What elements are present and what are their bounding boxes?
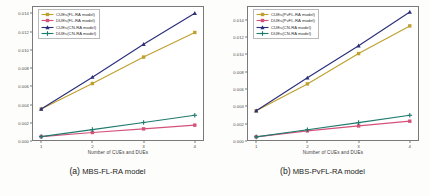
legend-marker-triangle-icon xyxy=(41,25,54,30)
series-line-3 xyxy=(41,115,195,136)
y-tick-label: 0.010 xyxy=(233,52,244,57)
x-tick-mark xyxy=(256,141,257,143)
legend-label: DUEs(PvFL-RA model) xyxy=(271,18,315,23)
y-tick-mark xyxy=(30,122,32,123)
y-tick-label: 0.000 xyxy=(233,139,244,144)
legend-label: CUEs(CN-RA model) xyxy=(56,25,96,30)
x-tick-label: 2 xyxy=(306,144,308,149)
y-tick-mark xyxy=(30,86,32,87)
x-tick-mark xyxy=(358,141,359,143)
legend-marker-triangle-icon xyxy=(256,25,269,30)
panel-b: Average Transmission Power (Watt) 0.0000… xyxy=(215,0,430,196)
legend-item[interactable]: DUEs(FL-RA model) xyxy=(41,18,96,23)
y-tick-mark xyxy=(30,141,32,142)
y-tick-label: 0.012 xyxy=(18,29,29,34)
x-tick-mark xyxy=(194,141,195,143)
series-line-3 xyxy=(256,115,410,137)
legend-marker-square-icon xyxy=(41,18,54,23)
y-tick-label: 0.000 xyxy=(18,139,29,144)
y-tick-mark xyxy=(245,19,247,20)
y-tick-label: 0.012 xyxy=(233,35,244,40)
two-panel-figure: Average Transmission Power (Watt) 0.0000… xyxy=(0,0,430,196)
x-axis-label-a: Number of CUEs and DUEs xyxy=(32,150,204,155)
y-tick-mark xyxy=(30,104,32,105)
caption-b: (b) MBS-PvFL-RA model xyxy=(215,166,430,176)
y-tick-label: 0.002 xyxy=(18,120,29,125)
y-tick-mark xyxy=(245,89,247,90)
legend-item[interactable]: CUEs(CN-RA model) xyxy=(256,25,315,30)
legend-marker-square-icon xyxy=(256,18,269,23)
x-tick-label: 1 xyxy=(255,144,257,149)
caption-a: (a) MBS-FL-RA model xyxy=(0,166,215,176)
series-line-0 xyxy=(41,32,195,109)
y-tick-mark xyxy=(245,54,247,55)
legend-item[interactable]: DUEs(PvFL-RA model) xyxy=(256,18,315,23)
legend-item[interactable]: CUEs(CN-RA model) xyxy=(41,25,96,30)
x-tick-mark xyxy=(92,141,93,143)
y-tick-label: 0.008 xyxy=(18,66,29,71)
y-tick-mark xyxy=(245,123,247,124)
legend-a[interactable]: CUEs(FL-RA model)DUEs(FL-RA model)CUEs(C… xyxy=(38,9,100,39)
y-tick-label: 0.014 xyxy=(233,17,244,22)
legend-label: DUEs(CN-RA model) xyxy=(271,31,311,36)
y-tick-label: 0.014 xyxy=(18,11,29,16)
y-tick-mark xyxy=(30,68,32,69)
legend-label: CUEs(FL-RA model) xyxy=(56,12,95,17)
panel-a: Average Transmission Power (Watt) 0.0000… xyxy=(0,0,215,196)
y-tick-label: 0.004 xyxy=(233,104,244,109)
legend-item[interactable]: CUEs(PvFL-RA model) xyxy=(256,12,315,17)
y-tick-label: 0.006 xyxy=(18,84,29,89)
caption-tag-b: (b) xyxy=(280,166,291,176)
x-tick-label: 3 xyxy=(357,144,359,149)
x-tick-mark xyxy=(409,141,410,143)
series-line-1 xyxy=(256,121,410,137)
legend-marker-plus-icon xyxy=(41,31,54,36)
y-tick-mark xyxy=(245,71,247,72)
legend-marker-plus-icon xyxy=(256,31,269,36)
legend-label: DUEs(CN-RA model) xyxy=(56,31,96,36)
y-tick-mark xyxy=(30,49,32,50)
caption-name-a: MBS-FL-RA model xyxy=(82,167,145,176)
y-tick-label: 0.008 xyxy=(233,69,244,74)
y-tick-label: 0.006 xyxy=(233,87,244,92)
y-tick-mark xyxy=(30,13,32,14)
legend-item[interactable]: CUEs(FL-RA model) xyxy=(41,12,96,17)
y-tick-label: 0.004 xyxy=(18,102,29,107)
caption-tag-a: (a) xyxy=(69,166,80,176)
legend-marker-square-icon xyxy=(41,12,54,17)
legend-item[interactable]: DUEs(CN-RA model) xyxy=(256,31,315,36)
legend-label: CUEs(PvFL-RA model) xyxy=(271,12,315,17)
legend-b[interactable]: CUEs(PvFL-RA model)DUEs(PvFL-RA model)CU… xyxy=(253,9,319,39)
legend-item[interactable]: DUEs(CN-RA model) xyxy=(41,31,96,36)
y-tick-label: 0.002 xyxy=(233,121,244,126)
caption-name-b: MBS-PvFL-RA model xyxy=(293,167,365,176)
y-tick-mark xyxy=(245,37,247,38)
series-line-1 xyxy=(41,125,195,136)
legend-marker-square-icon xyxy=(256,12,269,17)
x-tick-label: 2 xyxy=(91,144,93,149)
y-tick-mark xyxy=(30,31,32,32)
x-tick-mark xyxy=(41,141,42,143)
y-tick-mark xyxy=(245,106,247,107)
x-tick-mark xyxy=(307,141,308,143)
x-axis-label-b: Number of CUEs and DUEs xyxy=(247,150,419,155)
x-tick-mark xyxy=(143,141,144,143)
x-tick-label: 3 xyxy=(142,144,144,149)
legend-label: CUEs(CN-RA model) xyxy=(271,25,311,30)
x-tick-label: 4 xyxy=(194,144,196,149)
y-tick-label: 0.010 xyxy=(18,47,29,52)
x-tick-label: 1 xyxy=(40,144,42,149)
legend-label: DUEs(FL-RA model) xyxy=(56,18,95,23)
y-tick-mark xyxy=(245,141,247,142)
x-tick-label: 4 xyxy=(409,144,411,149)
